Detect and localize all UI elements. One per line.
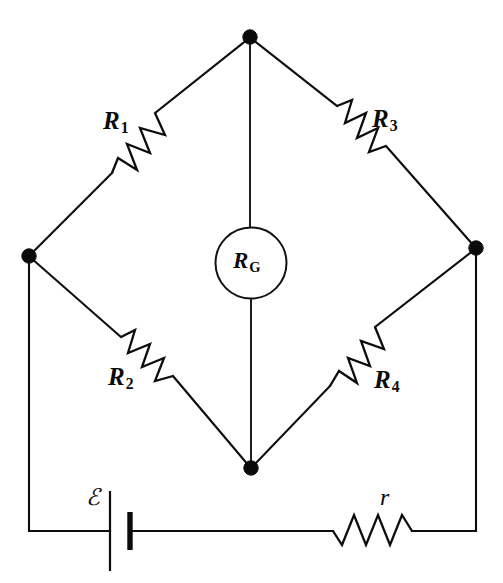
branch-top-left [31, 39, 248, 254]
label-r4-subscript: 4 [391, 378, 400, 395]
node-top-dot [243, 30, 257, 44]
node-right-dot [469, 241, 483, 255]
branch-bottom-left [31, 258, 249, 466]
label-r1-symbol: R [103, 107, 120, 134]
wire-r4-to-right [375, 250, 474, 327]
wire-r1-to-top [155, 39, 248, 113]
label-r3: R3 [372, 106, 398, 134]
wire-r2-to-bottom [173, 376, 249, 466]
label-r1-subscript: 1 [120, 119, 129, 136]
label-r1: R1 [103, 108, 129, 136]
wire-top-to-r3 [252, 39, 337, 106]
wire-r3-to-right [386, 146, 474, 246]
label-emf: ℰ [86, 486, 100, 509]
circuit-schematic [0, 0, 503, 583]
label-r2-symbol: R [108, 363, 125, 390]
wire-left-to-r1 [31, 173, 112, 254]
branch-bottom-right [253, 250, 474, 466]
wheatstone-bridge-figure: R1 R3 R2 R4 RG ℰ r [0, 0, 503, 583]
label-r2: R2 [108, 364, 134, 392]
wire-bottom-to-r4 [253, 386, 330, 466]
label-r2-subscript: 2 [125, 375, 134, 392]
label-rg: RG [233, 249, 261, 275]
label-rg-subscript: G [248, 259, 260, 275]
branch-top-right [252, 39, 474, 246]
label-r3-subscript: 3 [389, 117, 398, 134]
label-r-internal: r [380, 485, 389, 509]
battery-symbol [110, 491, 130, 571]
label-r4-symbol: R [374, 366, 391, 393]
resistor-r-zigzag [333, 515, 412, 545]
label-rg-symbol: R [233, 248, 248, 273]
label-r4: R4 [374, 367, 400, 395]
node-left-dot [22, 249, 36, 263]
node-bottom-dot [244, 461, 258, 475]
label-r3-symbol: R [372, 105, 389, 132]
wire-left-to-r2 [31, 258, 121, 337]
